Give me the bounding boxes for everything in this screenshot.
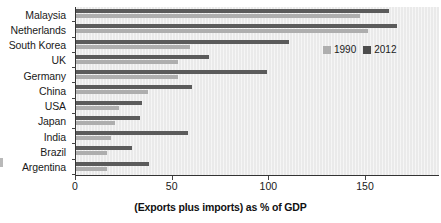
bar-row <box>76 114 439 129</box>
bar-2012 <box>76 162 149 166</box>
legend-swatch-icon <box>323 46 331 54</box>
bar-1990 <box>76 75 178 79</box>
bar-chart: MalaysiaNetherlandsSouth KoreaUKGermanyC… <box>0 0 441 223</box>
category-label: UK <box>0 53 70 68</box>
category-label: Malaysia <box>0 7 70 22</box>
x-tick-label: 100 <box>260 180 278 192</box>
bar-row <box>76 7 439 22</box>
bar-2012 <box>76 85 192 89</box>
bar-2012 <box>76 40 289 44</box>
bar-2012 <box>76 101 142 105</box>
bar-1990 <box>76 106 119 110</box>
bar-2012 <box>76 55 209 59</box>
category-tick <box>72 174 76 175</box>
x-tick-label: 50 <box>166 180 178 192</box>
legend-label: 1990 <box>334 44 356 55</box>
bar-rows <box>76 7 439 175</box>
bar-2012 <box>76 24 397 28</box>
bar-row <box>76 68 439 83</box>
bar-row <box>76 53 439 68</box>
bar-2012 <box>76 70 267 74</box>
x-axis-ticks: 050100150 <box>0 176 441 196</box>
bar-1990 <box>76 167 107 171</box>
category-label: Netherlands <box>0 22 70 37</box>
category-label: China <box>0 83 70 98</box>
category-label: Japan <box>0 114 70 129</box>
bar-1990 <box>76 90 148 94</box>
legend-swatch-icon <box>363 46 371 54</box>
bar-1990 <box>76 29 368 33</box>
category-label: South Korea <box>0 38 70 53</box>
category-label: India <box>0 129 70 144</box>
category-axis-labels: MalaysiaNetherlandsSouth KoreaUKGermanyC… <box>0 7 70 175</box>
bar-1990 <box>76 151 107 155</box>
bar-row <box>76 144 439 159</box>
bar-2012 <box>76 9 389 13</box>
category-label: Argentina <box>0 160 70 175</box>
bar-1990 <box>76 136 111 140</box>
bar-row <box>76 160 439 175</box>
category-label: Brazil <box>0 144 70 159</box>
x-tick-label: 150 <box>356 180 374 192</box>
bar-2012 <box>76 116 140 120</box>
bar-1990 <box>76 14 360 18</box>
bar-1990 <box>76 121 115 125</box>
bar-2012 <box>76 146 132 150</box>
bar-2012 <box>76 131 188 135</box>
legend-label: 2012 <box>374 44 396 55</box>
bar-row <box>76 22 439 37</box>
legend-item: 2012 <box>363 44 396 55</box>
bar-row <box>76 83 439 98</box>
bar-1990 <box>76 45 190 49</box>
legend-item: 1990 <box>323 44 356 55</box>
category-label: USA <box>0 99 70 114</box>
x-tick-label: 0 <box>72 180 78 192</box>
bar-row <box>76 99 439 114</box>
x-axis-title: (Exports plus imports) as % of GDP <box>0 201 441 213</box>
bar-row <box>76 129 439 144</box>
chart-legend: 19902012 <box>323 44 397 55</box>
category-label: Germany <box>0 68 70 83</box>
bar-1990 <box>76 60 178 64</box>
